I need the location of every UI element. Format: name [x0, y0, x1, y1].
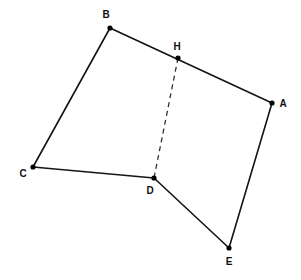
vertex-dot-a — [269, 100, 274, 105]
vertex-label-h: H — [173, 41, 180, 52]
vertex-dot-e — [226, 245, 231, 250]
vertex-label-a: A — [279, 98, 286, 109]
figure-canvas: BHACDE — [0, 0, 301, 280]
vertex-dot-d — [151, 175, 156, 180]
vertex-dot-h — [175, 55, 180, 60]
vertex-label-c: C — [19, 168, 26, 179]
vertex-dot-c — [30, 164, 35, 169]
vertex-label-b: B — [102, 9, 109, 20]
vertex-label-d: D — [146, 185, 153, 196]
geometry-figure: BHACDE — [0, 0, 301, 280]
vertex-dot-b — [107, 25, 112, 30]
vertex-label-e: E — [226, 256, 233, 267]
figure-background — [0, 0, 301, 280]
